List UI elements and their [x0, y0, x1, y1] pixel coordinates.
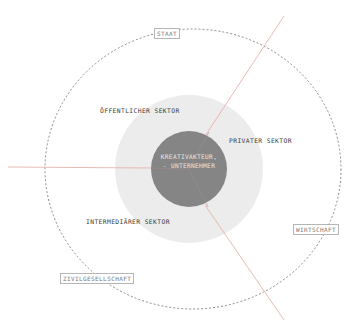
divider-line-lower-right [205, 205, 284, 320]
sphere-label-state: STAAT [154, 28, 180, 39]
sphere-label-economy: WIRTSCHAFT [293, 224, 339, 235]
core-label: KREATIVAKTEUR, - UNTERNEHMER [150, 152, 228, 170]
divider-line-upper-right [205, 16, 284, 136]
core-label-line1: KREATIVAKTEUR, [150, 152, 228, 161]
sector-label-private: PRIVATER SEKTOR [229, 137, 292, 144]
sphere-label-civil-society: ZIVILGESELLSCHAFT [60, 273, 134, 284]
sector-label-intermediary: INTERMEDIÄRER SEKTOR [86, 218, 170, 225]
sector-label-public: ÖFFENTLICHER SEKTOR [100, 107, 180, 114]
core-label-line2: - UNTERNEHMER [150, 161, 228, 170]
